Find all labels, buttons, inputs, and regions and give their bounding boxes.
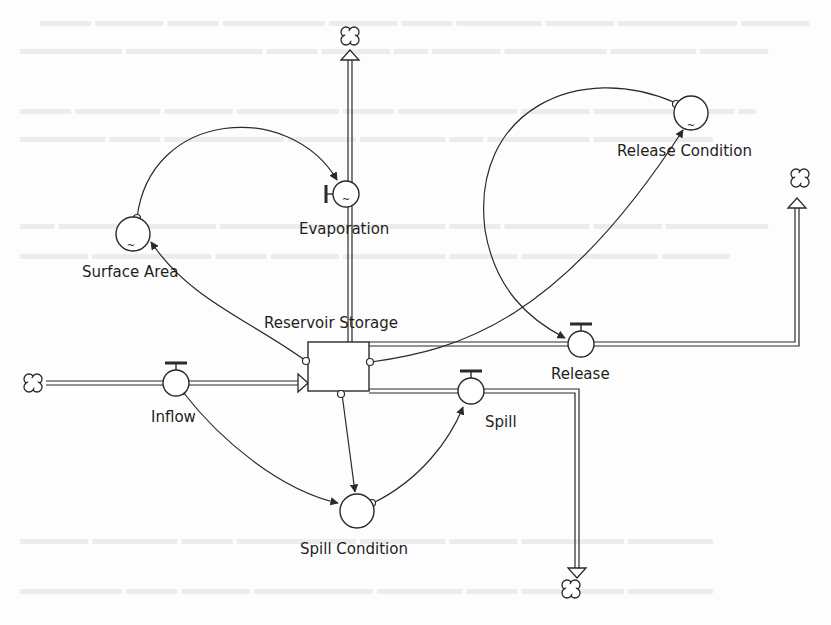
connector-storage-to-release-condition	[371, 130, 683, 362]
surface-area-label: Surface Area	[82, 265, 178, 280]
spill-condition-label: Spill Condition	[300, 542, 408, 557]
inflow-valve[interactable]	[163, 363, 189, 396]
spill-condition-converter[interactable]	[340, 494, 374, 528]
reservoir-storage-stock[interactable]	[308, 342, 369, 391]
evaporation-label: Evaporation	[299, 222, 389, 237]
cloud-sink-right-icon	[791, 169, 809, 187]
svg-text:~: ~	[687, 120, 695, 131]
inflow-label: Inflow	[151, 410, 196, 425]
connector-inflow-to-spill-condition	[183, 392, 338, 503]
release-valve[interactable]	[568, 324, 594, 357]
connector-release-condition-to-release	[484, 88, 676, 338]
connector-storage-to-spill-condition	[342, 394, 355, 492]
connector-storage-to-surface-area	[151, 242, 306, 361]
connector-spill-condition-to-spill	[373, 407, 463, 503]
svg-text:~: ~	[127, 240, 135, 251]
spill-label: Spill	[485, 415, 517, 430]
svg-text:~: ~	[342, 194, 350, 205]
connector-surface-area-to-evaporation	[137, 127, 337, 218]
evaporation-valve[interactable]: ~	[326, 181, 359, 207]
spill-valve[interactable]	[458, 371, 484, 404]
cloud-sink-top-icon	[341, 27, 359, 45]
cloud-sink-bottom-icon	[562, 580, 580, 598]
diagram-svg: ~ ~ ~	[0, 0, 831, 625]
cloud-source-icon	[24, 374, 42, 392]
reservoir-storage-label: Reservoir Storage	[264, 316, 398, 331]
release-label: Release	[551, 367, 610, 382]
release-condition-label: Release Condition	[617, 144, 752, 159]
surface-area-converter[interactable]: ~	[116, 217, 150, 251]
diagram-canvas: ▬▬▬ ▬▬▬▬ ▬▬▬ ▬▬▬▬▬▬ ▬▬▬▬ ▬▬▬ ▬▬▬▬▬ ▬▬▬▬ …	[0, 0, 831, 625]
release-condition-converter[interactable]: ~	[674, 96, 708, 131]
